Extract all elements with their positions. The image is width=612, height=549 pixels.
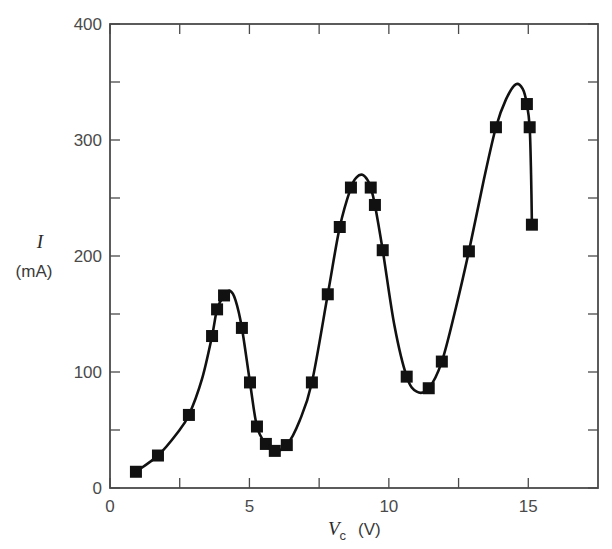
data-point-marker <box>377 244 389 256</box>
data-point-marker <box>423 382 435 394</box>
y-tick-label: 200 <box>74 247 102 266</box>
data-point-marker <box>436 356 448 368</box>
data-point-marker <box>236 322 248 334</box>
data-point-marker <box>130 466 142 478</box>
x-tick-label: 0 <box>105 497 114 516</box>
data-point-marker <box>306 376 318 388</box>
data-markers <box>130 98 538 478</box>
data-point-marker <box>211 303 223 315</box>
x-axis-label: Vc(V) <box>328 518 381 543</box>
data-point-marker <box>526 219 538 231</box>
x-tick-label: 10 <box>379 497 398 516</box>
y-tick-label: 300 <box>74 131 102 150</box>
y-tick-label: 0 <box>93 479 102 498</box>
data-point-marker <box>269 445 281 457</box>
data-point-marker <box>521 98 533 110</box>
data-point-marker <box>251 421 263 433</box>
data-point-marker <box>524 121 536 133</box>
fit-curve <box>136 84 532 472</box>
data-point-marker <box>369 199 381 211</box>
y-axis-label-unit: (mA) <box>16 262 53 281</box>
x-tick-label: 15 <box>519 497 538 516</box>
data-point-marker <box>244 376 256 388</box>
iv-curve-chart: 0510150100200300400 I (mA) Vc(V) <box>0 0 612 549</box>
data-point-marker <box>322 288 334 300</box>
data-point-marker <box>281 439 293 451</box>
data-point-marker <box>334 221 346 233</box>
data-point-marker <box>218 289 230 301</box>
x-axis-label-unit: (V) <box>358 520 381 539</box>
data-point-marker <box>365 182 377 194</box>
data-point-marker <box>183 409 195 421</box>
data-point-marker <box>490 121 502 133</box>
data-point-marker <box>345 182 357 194</box>
data-point-marker <box>152 450 164 462</box>
data-point-marker <box>206 330 218 342</box>
y-axis-label-variable: I <box>36 231 45 252</box>
data-point-marker <box>401 371 413 383</box>
y-tick-label: 100 <box>74 363 102 382</box>
y-tick-label: 400 <box>74 15 102 34</box>
x-axis-label-subscript: c <box>340 528 347 543</box>
x-tick-label: 5 <box>245 497 254 516</box>
data-point-marker <box>463 245 475 257</box>
tick-labels: 0510150100200300400 <box>74 15 538 516</box>
